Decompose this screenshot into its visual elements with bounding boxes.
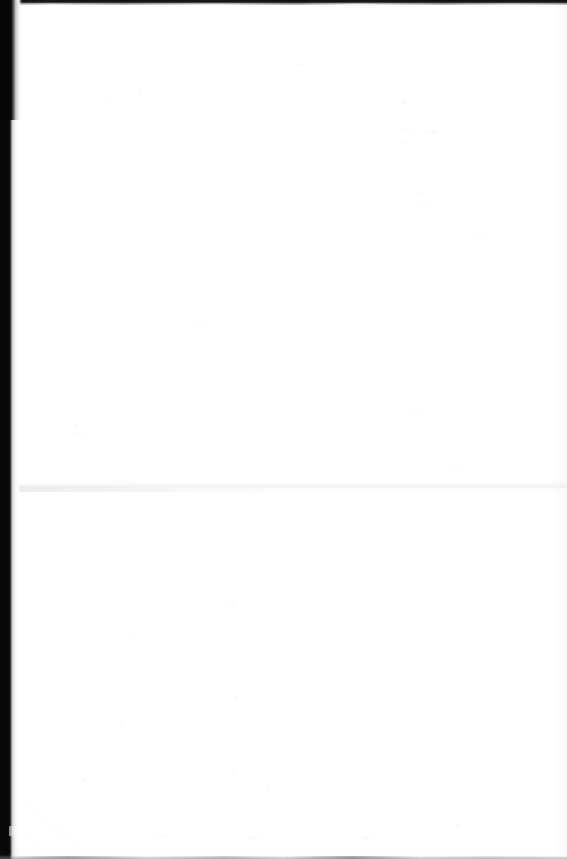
- binding-gutter-shadow: [0, 0, 19, 859]
- binding-gutter-top-flare: [0, 0, 22, 120]
- speckle-noise-layer: [0, 0, 567, 859]
- binding-gutter-break: [9, 826, 19, 836]
- top-edge-mottle: [0, 0, 567, 5]
- scanned-page: Blank scanned book page — no printed tex…: [0, 0, 567, 859]
